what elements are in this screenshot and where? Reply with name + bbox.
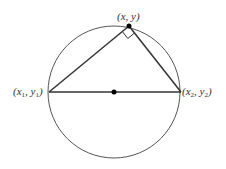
triangle-left-side <box>49 26 129 92</box>
vertex-point-top <box>127 24 132 29</box>
label-left: (x1, y1) <box>13 85 43 99</box>
label-top: (x, y) <box>117 10 140 23</box>
diagram-canvas: (x, y) (x1, y1) (x2, y2) <box>0 0 226 169</box>
triangle-right-side <box>129 26 181 92</box>
right-angle-marker <box>122 32 134 39</box>
label-right: (x2, y2) <box>182 85 212 99</box>
center-point <box>112 90 117 95</box>
